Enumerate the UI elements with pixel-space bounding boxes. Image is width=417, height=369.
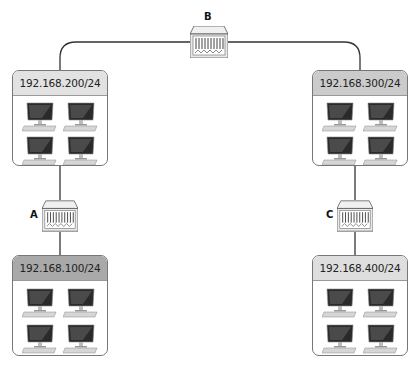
switch-c-label: C (326, 209, 333, 220)
network-diagram: B A C (0, 0, 417, 369)
subnet-label: 192.168.200/24 (13, 71, 107, 96)
host-group (313, 281, 407, 356)
desktop-computer-icon (60, 321, 101, 356)
host-group (13, 281, 107, 356)
network-192-168-400: 192.168.400/24 (312, 255, 408, 356)
network-switch-icon (190, 26, 228, 58)
desktop-computer-icon (19, 321, 60, 356)
host-group (13, 96, 107, 166)
desktop-computer-icon (60, 100, 101, 134)
desktop-computer-icon (319, 285, 360, 321)
network-switch-icon (337, 200, 373, 232)
desktop-computer-icon (360, 285, 401, 321)
host-group (313, 96, 407, 166)
desktop-computer-icon (60, 134, 101, 166)
network-192-168-100: 192.168.100/24 (12, 255, 108, 356)
desktop-computer-icon (60, 285, 101, 321)
desktop-computer-icon (319, 321, 360, 356)
switch-b-label: B (204, 11, 212, 22)
desktop-computer-icon (360, 100, 401, 134)
subnet-label: 192.168.100/24 (13, 256, 107, 281)
switch-a-label: A (30, 209, 38, 220)
desktop-computer-icon (19, 134, 60, 166)
subnet-label: 192.168.400/24 (313, 256, 407, 281)
desktop-computer-icon (319, 100, 360, 134)
desktop-computer-icon (360, 134, 401, 166)
network-192-168-200: 192.168.200/24 (12, 70, 108, 166)
desktop-computer-icon (19, 285, 60, 321)
network-192-168-300: 192.168.300/24 (312, 70, 408, 166)
desktop-computer-icon (319, 134, 360, 166)
subnet-label: 192.168.300/24 (313, 71, 407, 96)
desktop-computer-icon (19, 100, 60, 134)
desktop-computer-icon (360, 321, 401, 356)
network-switch-icon (42, 200, 78, 232)
